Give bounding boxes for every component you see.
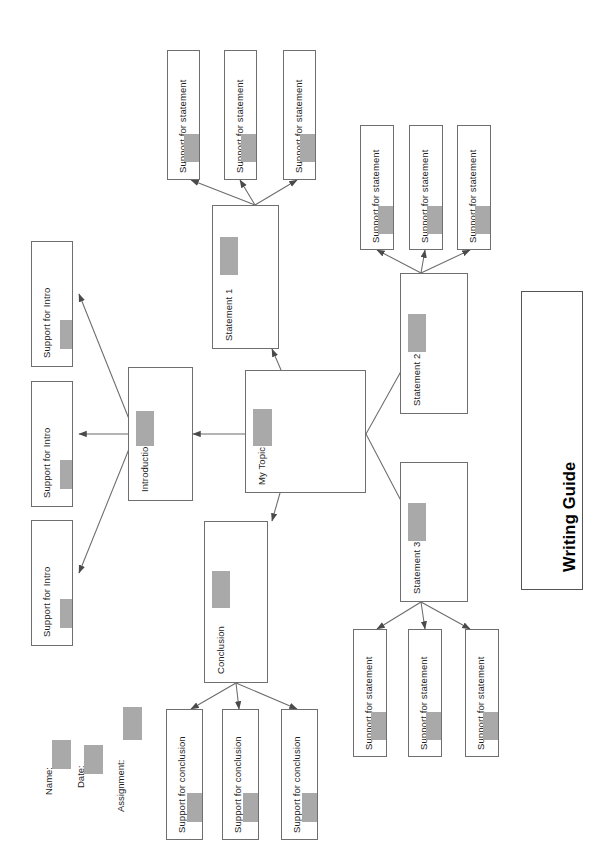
node-support-statement-3-3[interactable]: Support for statement [465,629,499,757]
node-support-intro-1-input[interactable] [60,320,73,349]
node-support-conclusion-1-label: Support for conclusion [177,736,187,833]
node-support-intro-1-label: Support for Intro [42,288,52,358]
node-statement-1-label: Statement 1 [224,289,234,341]
node-support-intro-2-input[interactable] [60,460,73,489]
node-support-statement-3-3-input[interactable] [483,712,498,740]
node-support-conclusion-2-input[interactable] [243,793,258,822]
date-field-input[interactable] [84,745,103,774]
name-field-label: Name: [44,767,54,795]
node-support-statement-2-3-input[interactable] [475,206,490,234]
node-support-statement-1-3[interactable]: Support for statement [283,50,316,180]
node-support-statement-2-2[interactable]: Support for statement [409,125,443,250]
node-support-statement-2-1[interactable]: Support for statement [360,125,394,250]
node-my-topic-input[interactable] [253,409,272,446]
node-support-statement-3-1[interactable]: Support for statement [353,629,387,757]
node-support-intro-2[interactable]: Support for Intro [31,381,73,507]
node-support-statement-2-3[interactable]: Support for statement [457,125,491,250]
node-support-conclusion-3-input[interactable] [302,793,317,822]
node-support-conclusion-2[interactable]: Support for conclusion [222,709,259,840]
node-statement-1[interactable]: Statement 1 [212,205,279,349]
assignment-field-label: Assignment: [116,760,126,812]
node-support-intro-2-label: Support for Intro [42,428,52,498]
node-my-topic-label: My Topic [257,447,267,485]
node-support-intro-3-input[interactable] [60,599,73,628]
node-support-statement-1-3-input[interactable] [300,134,315,162]
name-field-input[interactable] [52,740,71,769]
page-title: Writing Guide [561,462,578,572]
node-introduction[interactable]: Introduction [128,367,193,501]
node-support-statement-2-1-input[interactable] [378,206,393,234]
node-support-statement-1-1-input[interactable] [184,134,199,162]
node-support-conclusion-1[interactable]: Support for conclusion [166,709,203,840]
node-statement-2-input[interactable] [408,314,426,352]
node-support-statement-3-2-input[interactable] [426,712,441,740]
writing-guide-worksheet: Writing Guide Name: Date: Assignment: My… [0,0,614,866]
node-support-statement-3-2[interactable]: Support for statement [408,629,442,757]
node-support-conclusion-1-input[interactable] [187,793,202,822]
node-support-statement-1-2-input[interactable] [241,134,256,162]
node-conclusion[interactable]: Conclusion [204,521,268,683]
node-support-conclusion-3-label: Support for conclusion [292,736,302,833]
node-statement-2-label: Statement 2 [412,354,422,406]
node-conclusion-input[interactable] [212,571,230,608]
assignment-field-input[interactable] [123,707,142,740]
node-introduction-input[interactable] [136,411,154,446]
node-introduction-label: Introduction [140,441,150,492]
node-support-intro-1[interactable]: Support for Intro [31,241,73,367]
node-support-statement-1-2[interactable]: Support for statement [224,50,257,180]
node-statement-1-input[interactable] [220,237,238,275]
node-my-topic[interactable]: My Topic [245,370,366,493]
node-statement-2[interactable]: Statement 2 [400,273,468,414]
node-statement-3-input[interactable] [408,503,426,541]
node-support-statement-2-2-input[interactable] [427,206,442,234]
node-support-conclusion-3[interactable]: Support for conclusion [281,709,318,840]
node-support-intro-3[interactable]: Support for Intro [31,520,73,646]
node-statement-3[interactable]: Statement 3 [400,462,468,602]
node-support-statement-3-1-input[interactable] [371,712,386,740]
node-conclusion-label: Conclusion [216,626,226,674]
node-support-intro-3-label: Support for Intro [42,567,52,637]
node-support-conclusion-2-label: Support for conclusion [233,736,243,833]
page-title-plaque: Writing Guide [521,291,583,590]
node-support-statement-1-1[interactable]: Support for statement [167,50,200,180]
node-statement-3-label: Statement 3 [412,542,422,594]
